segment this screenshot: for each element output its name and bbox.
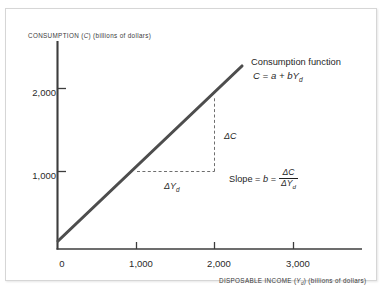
slope-formula-fraction: ΔC ΔYd bbox=[279, 168, 298, 190]
annotation-delta-yd: ΔYd bbox=[164, 181, 180, 193]
x-tick-label-1000: 1,000 bbox=[119, 258, 163, 269]
slope-fraction-denominator: ΔYd bbox=[279, 178, 298, 191]
slope-formula-lead: Slope = b = bbox=[229, 174, 276, 184]
chart-svg bbox=[6, 9, 378, 282]
y-tick-label-1000: 1,000 bbox=[14, 170, 56, 181]
x-tick-label-0: 0 bbox=[40, 258, 84, 269]
x-tick-label-2000: 2,000 bbox=[197, 258, 241, 269]
annotation-delta-c: ΔC bbox=[224, 131, 237, 141]
y-axis-title: CONSUMPTION (C) (billions of dollars) bbox=[28, 32, 151, 39]
x-tick-label-3000: 3,000 bbox=[276, 258, 320, 269]
figure-frame: CONSUMPTION (C) (billions of dollars) DI… bbox=[5, 8, 377, 281]
slope-fraction-numerator: ΔC bbox=[281, 168, 297, 178]
y-tick-label-2000: 2,000 bbox=[14, 87, 56, 98]
x-axis-title: DISPOSABLE INCOME (Yd) (billions of doll… bbox=[219, 277, 366, 286]
annotation-consumption-function-equation: C = a + bYd bbox=[253, 70, 303, 83]
annotation-slope-formula: Slope = b = ΔC ΔYd bbox=[229, 168, 298, 190]
chart-plot-area: CONSUMPTION (C) (billions of dollars) DI… bbox=[6, 9, 378, 282]
annotation-consumption-function-label: Consumption function bbox=[251, 57, 341, 67]
